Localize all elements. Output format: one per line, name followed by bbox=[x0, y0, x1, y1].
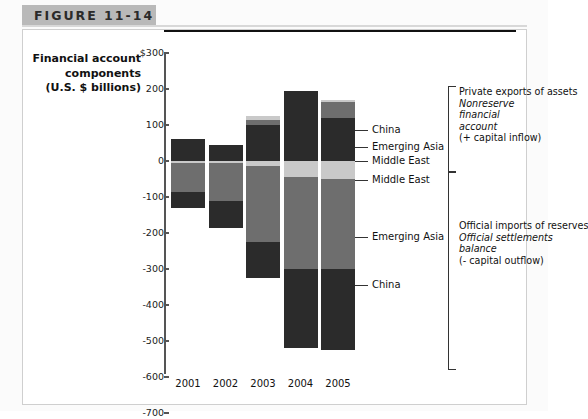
annotation-official-imports: Official imports of reservesOfficial set… bbox=[459, 220, 588, 266]
annotation-line: balance bbox=[459, 243, 588, 255]
bar-segment[interactable] bbox=[171, 139, 205, 161]
y-axis-tick-label: 200 bbox=[118, 83, 164, 95]
y-axis-tick-label-text: -500 bbox=[124, 335, 164, 346]
bar-segment[interactable] bbox=[284, 91, 318, 161]
bar-segment[interactable] bbox=[284, 161, 318, 177]
y-axis-tick-label-text: $300 bbox=[124, 47, 164, 58]
y-axis-tick-label: -700 bbox=[118, 407, 164, 419]
x-axis-tick-label: 2005 bbox=[316, 378, 360, 389]
y-axis-tick bbox=[164, 124, 169, 126]
annotation-line: Official imports of reserves bbox=[459, 220, 588, 232]
bar-segment[interactable] bbox=[246, 242, 280, 278]
y-axis-tick-label-text: -300 bbox=[124, 263, 164, 274]
y-axis-tick-label-text: 200 bbox=[124, 83, 164, 94]
bar-column[interactable] bbox=[284, 30, 318, 370]
annotation-line: Private exports of assets bbox=[459, 86, 577, 98]
bar-segment[interactable] bbox=[321, 102, 355, 118]
y-axis-tick-label: -400 bbox=[118, 299, 164, 311]
bar-segment[interactable] bbox=[209, 163, 243, 201]
series-leader-line bbox=[355, 161, 368, 162]
bar-segment[interactable] bbox=[284, 177, 318, 269]
y-axis-tick-label-text: -400 bbox=[124, 299, 164, 310]
y-axis-tick-label: -500 bbox=[118, 335, 164, 347]
y-axis-tick-label: 0 bbox=[118, 155, 164, 167]
series-label: Emerging Asia bbox=[372, 231, 444, 242]
bar-segment[interactable] bbox=[321, 269, 355, 350]
bar-column[interactable] bbox=[321, 30, 355, 370]
annotation-line: account bbox=[459, 121, 577, 133]
y-axis-tick-label: 100 bbox=[118, 119, 164, 131]
y-axis-tick-label: -300 bbox=[118, 263, 164, 275]
y-axis-tick bbox=[164, 196, 169, 198]
y-axis-tick bbox=[164, 340, 169, 342]
bar-segment[interactable] bbox=[321, 100, 355, 102]
bar-column[interactable] bbox=[246, 30, 280, 370]
series-leader-line bbox=[355, 147, 368, 148]
bar-column[interactable] bbox=[209, 30, 243, 370]
bar-segment[interactable] bbox=[321, 161, 355, 179]
series-label: Middle East bbox=[372, 155, 430, 166]
bar-segment[interactable] bbox=[171, 163, 205, 192]
y-axis-tick-label-text: -100 bbox=[124, 191, 164, 202]
annotation-line: Official settlements bbox=[459, 232, 588, 244]
bar-segment[interactable] bbox=[321, 118, 355, 161]
y-axis-tick bbox=[164, 88, 169, 90]
y-axis-tick bbox=[164, 268, 169, 270]
bar-segment[interactable] bbox=[284, 269, 318, 348]
y-axis-tick bbox=[164, 52, 169, 54]
figure-label: FIGURE 11-14 bbox=[34, 8, 154, 23]
y-axis-tick bbox=[164, 412, 169, 414]
y-axis-tick-label-text: -200 bbox=[124, 227, 164, 238]
chart-title-line-2: components bbox=[31, 67, 141, 82]
annotation-line: financial bbox=[459, 109, 577, 121]
y-axis-tick-label-text: -600 bbox=[124, 371, 164, 382]
header-rule bbox=[22, 25, 527, 27]
y-axis-tick bbox=[164, 304, 169, 306]
bar-segment[interactable] bbox=[209, 145, 243, 161]
y-axis-tick-label-text: -700 bbox=[124, 407, 164, 418]
bar-segment[interactable] bbox=[246, 125, 280, 161]
series-label: Emerging Asia bbox=[372, 141, 444, 152]
y-axis-tick-label: -100 bbox=[118, 191, 164, 203]
y-axis-tick-label: $300 bbox=[118, 47, 164, 59]
annotation-line: (- capital outflow) bbox=[459, 255, 588, 267]
series-leader-line bbox=[355, 130, 368, 131]
bracket-private-exports bbox=[448, 86, 456, 172]
y-axis-line bbox=[164, 52, 166, 374]
annotation-line: Nonreserve bbox=[459, 98, 577, 110]
bar-segment[interactable] bbox=[321, 179, 355, 269]
annotation-line: (+ capital inflow) bbox=[459, 132, 577, 144]
figure-header-bar: FIGURE 11-14 bbox=[22, 5, 156, 25]
bar-segment[interactable] bbox=[246, 120, 280, 125]
bar-segment[interactable] bbox=[209, 201, 243, 228]
series-label: China bbox=[372, 279, 401, 290]
bar-segment[interactable] bbox=[246, 166, 280, 242]
bar-segment[interactable] bbox=[171, 192, 205, 208]
series-leader-line bbox=[355, 285, 368, 286]
y-axis-tick-label: -200 bbox=[118, 227, 164, 239]
annotation-private-exports: Private exports of assetsNonreservefinan… bbox=[459, 86, 577, 144]
y-axis-tick-label-text: 100 bbox=[124, 119, 164, 130]
y-axis-tick-label: -600 bbox=[118, 371, 164, 383]
bar-column[interactable] bbox=[171, 30, 205, 370]
series-leader-line bbox=[355, 237, 368, 238]
series-leader-line bbox=[355, 180, 368, 181]
plot-area: Financial account components (U.S. $ bil… bbox=[23, 30, 526, 404]
y-axis-tick bbox=[164, 160, 169, 162]
series-label: China bbox=[372, 124, 401, 135]
series-label: Middle East bbox=[372, 174, 430, 185]
y-axis-tick-label-text: 0 bbox=[124, 155, 164, 166]
bracket-official-imports bbox=[448, 172, 456, 370]
bar-segment[interactable] bbox=[246, 116, 280, 120]
y-axis-tick bbox=[164, 232, 169, 234]
chart-frame: Financial account components (U.S. $ bil… bbox=[22, 29, 527, 405]
